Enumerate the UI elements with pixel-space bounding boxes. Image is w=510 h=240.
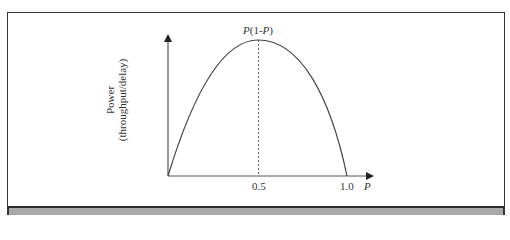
x-tick-1-0: 1.0: [340, 180, 354, 192]
x-axis-label: P: [364, 180, 371, 192]
x-tick-0-5: 0.5: [252, 180, 266, 192]
bottom-gray-band: [7, 206, 505, 215]
curve-label-mid: (1-: [250, 24, 263, 36]
power-curve: [168, 40, 347, 176]
curve-label-p: P: [243, 24, 250, 36]
band-right-edge: [503, 206, 505, 215]
curve-label-close: ): [269, 24, 273, 36]
y-axis-label-line1: Power: [104, 59, 116, 141]
y-axis-label-line2: (throughput/delay): [116, 59, 128, 141]
band-left-edge: [7, 206, 9, 215]
curve-label: P(1-P): [243, 24, 273, 36]
y-axis-label: Power (throughput/delay): [104, 59, 128, 141]
